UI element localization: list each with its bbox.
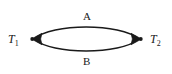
edge-arc-b[interactable] [34, 39, 139, 51]
node-label-t2-base: T [150, 32, 157, 46]
edge-arc-a[interactable] [34, 27, 139, 39]
diagram-canvas: T1 T2 A B [0, 0, 172, 74]
node-dot-t2[interactable] [139, 37, 143, 41]
node-label-t2-subscript: 2 [157, 39, 161, 48]
edge-label-a: A [83, 11, 91, 22]
node-dot-t1[interactable] [30, 37, 34, 41]
node-label-t1-subscript: 1 [15, 39, 19, 48]
edge-label-b: B [83, 56, 90, 67]
node-label-t1: T1 [8, 33, 19, 48]
node-label-t1-base: T [8, 32, 15, 46]
node-label-t2: T2 [150, 33, 161, 48]
